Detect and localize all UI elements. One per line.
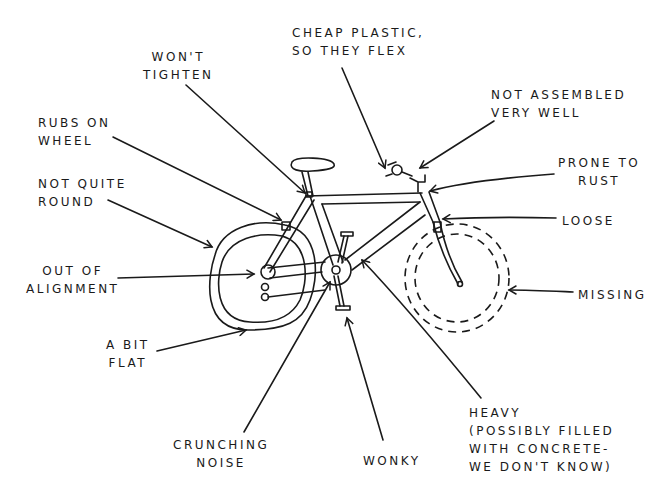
label-crunching-noise: CRUNCHING NOISE [173, 436, 269, 472]
label-wont-tighten: WON'T TIGHTEN [143, 48, 214, 84]
label-prone-to-rust: PRONE TO RUST [558, 154, 640, 190]
label-missing: MISSING [578, 286, 646, 304]
label-a-bit-flat: A BIT FLAT [106, 336, 150, 372]
label-heavy: HEAVY (POSSIBLY FILLED WITH CONCRETE- WE… [469, 404, 614, 476]
label-out-of-alignment: OUT OF ALIGNMENT [26, 262, 119, 298]
label-cheap-plastic: CHEAP PLASTIC, SO THEY FLEX [292, 24, 424, 60]
label-wonky: WONKY [363, 452, 421, 470]
bicycle-diagram: WON'T TIGHTEN CHEAP PLASTIC, SO THEY FLE… [0, 0, 672, 491]
label-loose: LOOSE [562, 212, 615, 230]
label-not-quite-round: NOT QUITE ROUND [38, 175, 127, 211]
front-wheel-missing [405, 224, 509, 332]
label-rubs-on-wheel: RUBS ON WHEEL [38, 114, 111, 150]
label-not-assembled: NOT ASSEMBLED VERY WELL [491, 86, 626, 122]
